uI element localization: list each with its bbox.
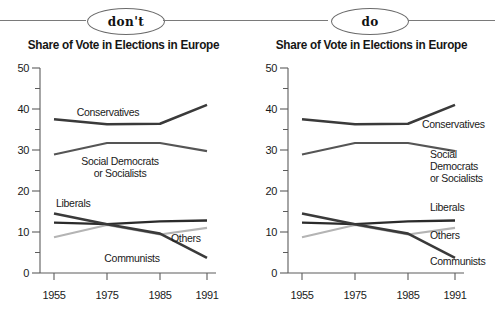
x-tick-1955: 1955	[43, 289, 66, 301]
panel-do: Share of Vote in Elections in Europe 50	[248, 34, 495, 309]
panel-dont: Share of Vote in Elections in Europe 50	[0, 34, 247, 309]
series-line-liberals-dont	[54, 221, 207, 225]
header-rule-left	[0, 20, 86, 21]
y-ticks-minor-dont	[35, 89, 40, 253]
x-tick-1991: 1991	[444, 289, 467, 301]
series-label-social-democrats-line1-dont: Social Democrats	[81, 155, 159, 167]
y-tick-40: 40	[18, 103, 30, 115]
x-tick-1985: 1985	[397, 289, 420, 301]
series-line-social-democrats-dont	[54, 143, 207, 155]
y-tick-40: 40	[266, 103, 278, 115]
series-line-liberals-do	[302, 221, 455, 225]
y-tick-50: 50	[266, 62, 278, 74]
header-rule-middle	[163, 20, 328, 21]
dont-do-chart-comparison: don't do Share of Vote in Elections in E…	[0, 0, 495, 309]
series-label-social-democrats-line3-do: or Socialists	[430, 172, 483, 184]
y-tick-20: 20	[18, 185, 30, 197]
do-pill: do	[331, 8, 409, 35]
series-label-communists-do: Communists	[430, 255, 485, 267]
series-label-others-do: Others	[430, 229, 460, 241]
y-ticks-minor-do	[283, 89, 288, 253]
x-tick-1975: 1975	[344, 289, 367, 301]
series-label-social-democrats-line2-dont: or Socialists	[94, 167, 147, 179]
dont-pill: don't	[87, 8, 165, 35]
x-tick-1975: 1975	[96, 289, 119, 301]
series-label-others-dont: Others	[171, 232, 201, 244]
series-label-social-democrats-line2-do: Democrats	[430, 160, 478, 172]
y-tick-30: 30	[18, 144, 30, 156]
header-rule-right	[408, 20, 495, 21]
comparison-header: don't do	[0, 0, 495, 34]
x-ticks-dont: 1955 1975 1985 1991	[43, 273, 219, 301]
series-label-liberals-do: Liberals	[430, 201, 464, 213]
series-label-communists-dont: Communists	[104, 252, 159, 264]
plot-area-do: 50 40 30 20 10 0	[248, 56, 495, 309]
y-tick-20: 20	[266, 185, 278, 197]
y-tick-50: 50	[18, 62, 30, 74]
y-tick-10: 10	[18, 226, 30, 238]
line-chart-dont: 50 40 30 20 10 0	[0, 56, 247, 309]
y-tick-30: 30	[266, 144, 278, 156]
series-label-social-democrats-line1-do: Social	[430, 148, 457, 160]
x-tick-1991: 1991	[196, 289, 219, 301]
plot-area-dont: 50 40 30 20 10 0	[0, 56, 247, 309]
series-label-conservatives-do: Conservatives	[422, 118, 485, 130]
series-label-conservatives-dont: Conservatives	[77, 106, 140, 118]
x-ticks-do: 1955 1975 1985 1991	[291, 273, 467, 301]
x-tick-1985: 1985	[149, 289, 172, 301]
series-label-liberals-dont: Liberals	[56, 197, 90, 209]
line-chart-do: 50 40 30 20 10 0	[248, 56, 495, 309]
y-tick-0: 0	[23, 267, 29, 279]
y-tick-0: 0	[271, 267, 277, 279]
chart-title-dont: Share of Vote in Elections in Europe	[7, 38, 239, 52]
x-tick-1955: 1955	[291, 289, 314, 301]
y-tick-10: 10	[266, 226, 278, 238]
chart-title-do: Share of Vote in Elections in Europe	[255, 38, 487, 52]
